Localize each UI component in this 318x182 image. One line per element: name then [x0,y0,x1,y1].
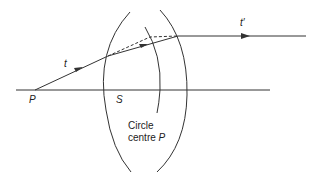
label-ray-t: t [64,59,67,69]
label-centre-p: P [159,132,166,143]
diagram-drawing [0,0,318,182]
reference-circle-arc [145,27,160,113]
label-centre: centre P [128,133,165,143]
label-point-s: S [116,95,123,105]
arrow-icon [139,44,148,48]
lens-left-surface [103,12,131,172]
label-point-p: P [29,95,36,105]
lens-right-surface [157,10,187,172]
arrow-icon [241,33,250,39]
incident-ray-t [35,56,108,90]
lens-ray-diagram: P S t t′ Circle centre P [0,0,318,182]
label-ray-t-prime: t′ [240,18,245,28]
label-centre-text: centre [128,132,156,143]
label-circle: Circle [128,121,154,131]
